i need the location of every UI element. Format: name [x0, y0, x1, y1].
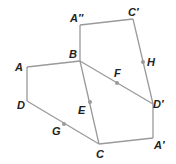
label-F: F [114, 67, 121, 79]
edge-ApC [99, 138, 153, 144]
midpoint-E-dot [88, 100, 92, 104]
label-C-prime: C′ [128, 6, 140, 18]
label-D: D [17, 99, 25, 111]
label-A-prime: A′ [153, 139, 166, 151]
label-D-prime: D′ [153, 98, 165, 110]
label-A-double-prime: A″ [69, 12, 84, 24]
label-B: B [69, 48, 77, 60]
label-A: A [14, 61, 23, 73]
edge-AB [27, 61, 80, 67]
midpoint-H-dot [141, 60, 145, 64]
label-H: H [147, 56, 156, 68]
label-G: G [52, 125, 61, 137]
geometry-diagram: A B C D A″ C′ D′ A′ E F G H [0, 0, 176, 164]
label-E: E [78, 104, 86, 116]
midpoint-G-dot [62, 122, 66, 126]
midpoint-F-dot [115, 81, 119, 85]
label-C: C [96, 148, 105, 160]
edge-A2Cp [80, 19, 133, 25]
